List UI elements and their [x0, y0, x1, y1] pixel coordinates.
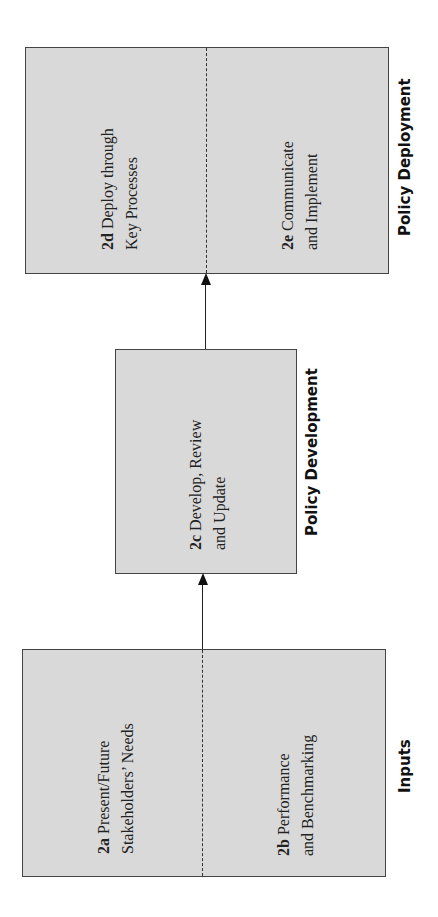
- item-2a-line1: Present/Future: [95, 741, 112, 834]
- item-2c: 2c Develop, Review and Update: [184, 420, 232, 550]
- item-2d: 2d Deploy through Key Processes: [96, 128, 144, 250]
- inputs-box: [22, 649, 386, 877]
- item-2e: 2e Communicate and Implement: [276, 141, 324, 250]
- item-2c-line2: and Update: [208, 420, 232, 550]
- stage-label-policy-development: Policy Development: [303, 368, 321, 536]
- connector-line-1: [202, 584, 203, 650]
- item-2c-line1: Develop, Review: [187, 420, 204, 531]
- item-2a-code: 2a: [95, 838, 112, 854]
- item-2e-line2: and Implement: [300, 141, 324, 250]
- stage-label-policy-deployment: Policy Deployment: [396, 78, 414, 236]
- item-2d-code: 2d: [99, 233, 116, 250]
- item-2b-code: 2b: [275, 839, 292, 856]
- item-2d-line1: Deploy through: [99, 128, 116, 229]
- policy-deployment-divider: [206, 48, 207, 273]
- item-2d-line2: Key Processes: [120, 128, 144, 250]
- item-2b-line2: and Benchmarking: [296, 735, 320, 856]
- inputs-divider: [202, 650, 203, 876]
- stage-label-inputs: Inputs: [396, 739, 414, 793]
- item-2e-code: 2e: [279, 235, 296, 250]
- arrow-up-icon: [201, 273, 211, 285]
- item-2b: 2b Performance and Benchmarking: [272, 735, 320, 856]
- policy-deployment-box: [25, 47, 389, 274]
- item-2a: 2a Present/Future Stakeholders’ Needs: [92, 723, 140, 854]
- item-2e-line1: Communicate: [279, 141, 296, 231]
- arrow-up-icon: [198, 573, 208, 585]
- item-2a-line2: Stakeholders’ Needs: [116, 723, 140, 854]
- connector-line-2: [205, 284, 206, 350]
- item-2b-line1: Performance: [275, 753, 292, 835]
- item-2c-code: 2c: [187, 535, 204, 550]
